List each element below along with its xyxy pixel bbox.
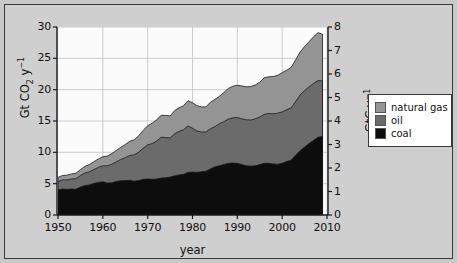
y-tick-left-10: 10 — [25, 145, 51, 158]
x-axis-title: year — [58, 243, 327, 257]
y-axis-left-title: Gt CO2 y−1 — [17, 33, 34, 143]
y-tick-right-3: 3 — [334, 138, 341, 151]
legend-item-oil[interactable]: oil — [375, 115, 445, 126]
legend-item-natural-gas[interactable]: natural gas — [375, 102, 445, 113]
plot-area — [58, 27, 327, 215]
x-tick-1990: 1990 — [217, 221, 257, 234]
stacked-area-chart — [58, 27, 327, 215]
y-tick-right-1: 1 — [334, 185, 341, 198]
figure-frame: 051015202530 012345678 19501960197019801… — [4, 4, 453, 259]
legend-swatch-icon-oil — [375, 115, 386, 126]
y-tick-left-0: 0 — [25, 208, 51, 221]
y-left-title-sub: 2 — [26, 79, 35, 84]
y-tick-right-0: 0 — [334, 208, 341, 221]
y-tick-right-2: 2 — [334, 161, 341, 174]
legend-swatch-icon-natural-gas — [375, 102, 386, 113]
legend-label: coal — [391, 129, 412, 139]
legend-label: natural gas — [391, 103, 448, 113]
y-tick-right-7: 7 — [334, 44, 341, 57]
figure-canvas: 051015202530 012345678 19501960197019801… — [0, 0, 457, 263]
legend-swatch-icon-coal — [375, 128, 386, 139]
y-tick-left-5: 5 — [25, 177, 51, 190]
y-tick-right-5: 5 — [334, 91, 341, 104]
x-tick-2010: 2010 — [307, 221, 347, 234]
x-tick-1960: 1960 — [83, 221, 123, 234]
x-tick-1980: 1980 — [173, 221, 213, 234]
y-left-title-mid: y — [18, 69, 32, 79]
x-tick-1970: 1970 — [128, 221, 168, 234]
y-tick-right-6: 6 — [334, 67, 341, 80]
y-tick-right-4: 4 — [334, 114, 341, 127]
y-tick-left-30: 30 — [25, 20, 51, 33]
x-tick-1950: 1950 — [38, 221, 78, 234]
y-left-title-sup: −1 — [17, 57, 26, 69]
y-tick-right-8: 8 — [334, 20, 341, 33]
chart-legend: natural gasoilcoal — [368, 94, 452, 147]
legend-item-coal[interactable]: coal — [375, 128, 445, 139]
x-tick-2000: 2000 — [262, 221, 302, 234]
y-left-title-text: Gt CO — [18, 84, 32, 118]
legend-label: oil — [391, 116, 403, 126]
